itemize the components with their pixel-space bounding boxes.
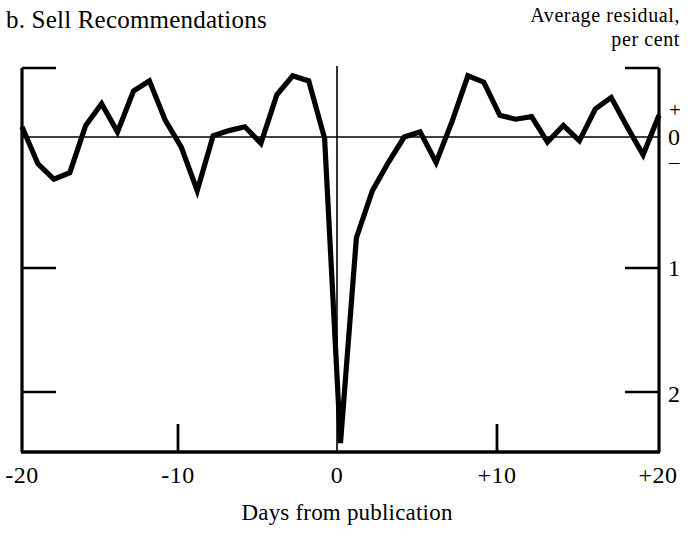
y-tick-label-0: 0 (668, 124, 681, 151)
x-tick-label-+10: +10 (477, 462, 516, 489)
x-tick-label--20: -20 (5, 462, 39, 489)
x-axis-label: Days from publication (0, 500, 694, 526)
chart-svg (0, 0, 694, 470)
residual-series-line (22, 76, 659, 443)
y-axis-plus-sign: + (669, 98, 681, 123)
y-tick-label-1: 1 (668, 255, 681, 282)
y-tick-label-2: 2 (668, 381, 681, 408)
x-tick-label-0: 0 (331, 462, 344, 489)
plot-area (0, 0, 694, 470)
chart-panel: b. Sell Recommendations Average residual… (0, 0, 694, 544)
x-tick-label-+20: +20 (638, 462, 677, 489)
y-axis-ticks (22, 68, 659, 392)
x-tick-label--10: -10 (161, 462, 195, 489)
y-axis-minus-sign: – (669, 150, 680, 175)
